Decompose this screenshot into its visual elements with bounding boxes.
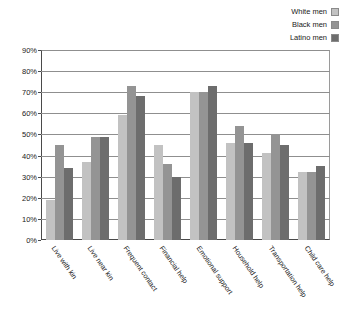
- x-axis-label-slot: Emotional support: [186, 242, 222, 314]
- bar: [127, 86, 136, 240]
- legend-swatch-latino-men: [331, 34, 339, 42]
- x-axis-label-slot: Child care help: [294, 242, 330, 314]
- legend-swatch-black-men: [331, 21, 339, 29]
- chart-legend: White men Black men Latino men: [290, 6, 339, 43]
- bar: [262, 153, 271, 240]
- y-axis-tick-label: 40%: [22, 151, 37, 160]
- y-axis-tick-label: 70%: [22, 88, 37, 97]
- bar: [316, 166, 325, 240]
- y-axis-tick-label: 10%: [22, 214, 37, 223]
- bar: [298, 172, 307, 240]
- bar: [136, 96, 145, 240]
- x-axis-tick-label: Child care help: [303, 244, 337, 288]
- y-axis-tick-label: 30%: [22, 172, 37, 181]
- bar: [307, 172, 316, 240]
- bar-group: [258, 50, 294, 240]
- legend-item-latino-men: Latino men: [290, 32, 339, 43]
- bar: [244, 143, 253, 240]
- y-axis-tick-label: 60%: [22, 109, 37, 118]
- bar-group: [41, 50, 77, 240]
- y-axis-tick-label: 50%: [22, 130, 37, 139]
- legend-label-black-men: Black men: [292, 19, 327, 30]
- bar: [226, 143, 235, 240]
- chart-plot-area: 0%10%20%30%40%50%60%70%80%90%: [41, 50, 330, 240]
- bar: [91, 137, 100, 240]
- bar-group: [186, 50, 222, 240]
- bar: [46, 200, 55, 240]
- y-axis-tick-label: 90%: [22, 46, 37, 55]
- x-axis-labels: Live with kinLive near kinFrequent conta…: [41, 242, 330, 314]
- bar: [154, 145, 163, 240]
- legend-label-latino-men: Latino men: [290, 32, 327, 43]
- bars-layer: [41, 50, 330, 240]
- bar: [271, 134, 280, 240]
- x-axis-label-slot: Live near kin: [77, 242, 113, 314]
- y-axis-tick-label: 20%: [22, 193, 37, 202]
- bar: [190, 92, 199, 240]
- y-axis-tick-label: 80%: [22, 67, 37, 76]
- bar-group: [222, 50, 258, 240]
- legend-swatch-white-men: [331, 8, 339, 16]
- x-axis-tick-label: Live with kin: [50, 244, 79, 281]
- bar: [208, 86, 217, 240]
- bar-group: [149, 50, 185, 240]
- bar-group: [294, 50, 330, 240]
- legend-label-white-men: White men: [291, 6, 327, 17]
- bar: [64, 168, 73, 240]
- bar: [82, 162, 91, 240]
- bar: [118, 115, 127, 240]
- x-axis-label-slot: Frequent contact: [113, 242, 149, 314]
- x-axis-tick-label: Live near kin: [86, 244, 116, 282]
- bar-group: [77, 50, 113, 240]
- x-axis-label-slot: Transportation help: [258, 242, 294, 314]
- bar: [100, 137, 109, 240]
- bar: [55, 145, 64, 240]
- x-axis-label-slot: Household help: [222, 242, 258, 314]
- y-axis-tick-mark: [38, 240, 41, 241]
- bar: [163, 164, 172, 240]
- bar-group: [113, 50, 149, 240]
- legend-item-black-men: Black men: [292, 19, 339, 30]
- x-axis-label-slot: Financial help: [149, 242, 185, 314]
- bar: [235, 126, 244, 240]
- bar: [199, 92, 208, 240]
- bar: [172, 177, 181, 240]
- legend-item-white-men: White men: [291, 6, 339, 17]
- y-axis-tick-label: 0%: [26, 236, 37, 245]
- bar: [280, 145, 289, 240]
- x-axis-label-slot: Live with kin: [41, 242, 77, 314]
